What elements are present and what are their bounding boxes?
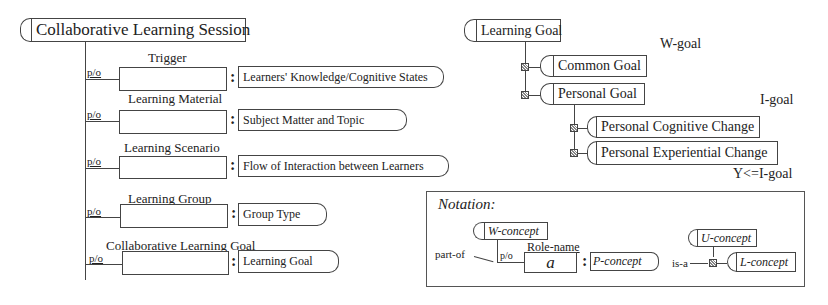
is-a-icon [709, 259, 717, 267]
i-goal-label: I-goal [760, 92, 793, 108]
connector-line [717, 263, 727, 264]
role-slot-box [122, 251, 229, 275]
y-goal-label: Y<=I-goal [733, 166, 792, 182]
part-of-label: p/o [87, 155, 101, 167]
concept-cap-icon [329, 250, 339, 273]
session-title-node: Collaborative Learning Session [31, 18, 246, 42]
connector-line [85, 121, 120, 122]
connector-line [85, 264, 123, 265]
connector-line [497, 262, 525, 263]
class-constraint-colon: : [230, 110, 235, 128]
concept-node-learning-goal: Learning Goal [238, 250, 330, 273]
concept-cap-icon [540, 55, 554, 77]
arrow-icon [690, 263, 708, 264]
p-concept-node: P-concept [590, 252, 652, 271]
is-a-icon [570, 124, 578, 132]
concept-node-scenario: Flow of Interaction between Learners [238, 155, 438, 177]
u-concept-node: U-concept [697, 229, 757, 247]
w-goal-label: W-goal [660, 36, 701, 52]
class-constraint-colon: : [582, 252, 587, 270]
role-slot-a: a [524, 252, 577, 273]
is-a-icon [570, 149, 578, 157]
concept-node-material: Subject Matter and Topic [238, 109, 396, 131]
role-label-scenario: Learning Scenario [124, 140, 220, 156]
concept-cap-icon [432, 66, 444, 88]
role-label-material: Learning Material [128, 91, 222, 107]
concept-cap-icon [437, 155, 449, 177]
ontology-diagram: Collaborative Learning Session Trigger p… [0, 0, 828, 305]
class-constraint-colon: : [231, 252, 236, 270]
p-o-label: p/o [500, 250, 513, 261]
l-concept-node: L-concept [736, 252, 796, 272]
w-concept-node: W-concept [484, 222, 548, 240]
is-a-note: is-a [672, 257, 688, 269]
notation-title: Notation: [438, 196, 496, 213]
part-of-label: p/o [87, 205, 101, 217]
part-of-label: p/o [87, 66, 101, 78]
connector-line [85, 217, 121, 218]
class-constraint-colon: : [230, 156, 235, 174]
class-constraint-colon: : [230, 68, 235, 86]
part-of-label: p/o [87, 108, 101, 120]
concept-cap-icon [540, 83, 554, 105]
connector-line [713, 247, 714, 257]
class-constraint-colon: : [231, 204, 236, 222]
concept-cap-icon [395, 109, 407, 131]
common-goal-node: Common Goal [553, 55, 647, 77]
role-slot-box [119, 156, 227, 179]
personal-goal-node: Personal Goal [553, 83, 645, 105]
part-of-label: p/o [89, 252, 103, 264]
connector-line [85, 168, 120, 169]
part-of-note: part-of [435, 248, 465, 260]
concept-cap-icon [317, 203, 327, 226]
role-label-trigger: Trigger [148, 50, 187, 66]
is-a-icon [521, 63, 529, 71]
is-a-icon [521, 91, 529, 99]
connector-line [497, 240, 498, 262]
session-trunk-line [85, 42, 86, 280]
concept-node-trigger: Learners' Knowledge/Cognitive States [238, 66, 433, 88]
personal-cognitive-change-node: Personal Cognitive Change [596, 116, 760, 138]
role-slot-box [119, 67, 227, 91]
role-slot-box [120, 204, 228, 228]
learning-goal-node: Learning Goal [476, 19, 561, 42]
personal-experiential-change-node: Personal Experiential Change [596, 141, 778, 165]
connector-line [85, 79, 120, 80]
role-slot-box [119, 110, 227, 134]
concept-node-group: Group Type [238, 203, 318, 226]
